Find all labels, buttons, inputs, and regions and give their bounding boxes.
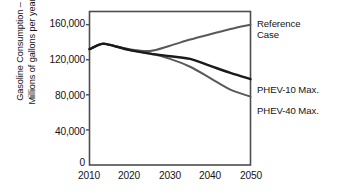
series-line-phev-10-max [90,44,251,79]
gasoline-consumption-chart: Gasoline Consumption – Millions of gallo… [0,0,346,195]
plot-area [0,0,346,195]
series-line-reference-case [90,25,251,51]
series-line-phev-40-max [90,44,251,97]
series-lines [90,25,251,97]
